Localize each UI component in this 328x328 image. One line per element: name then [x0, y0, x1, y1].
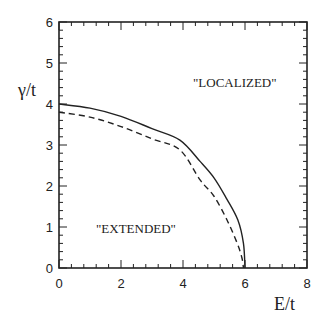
- y-tick-labels: 0123456: [46, 15, 53, 276]
- y-tick-label: 5: [46, 56, 53, 71]
- x-tick-label: 4: [179, 276, 186, 291]
- x-axis-label: E/t: [274, 294, 295, 314]
- solid-curve: [59, 104, 245, 268]
- x-tick-label: 0: [55, 276, 62, 291]
- y-axis-label: γ/t: [17, 80, 36, 100]
- y-tick-label: 3: [46, 138, 53, 153]
- y-tick-label: 0: [46, 261, 53, 276]
- extended-label: "EXTENDED": [96, 221, 176, 236]
- y-tick-label: 1: [46, 220, 53, 235]
- x-tick-labels: 02468: [55, 276, 310, 291]
- x-tick-label: 8: [303, 276, 310, 291]
- phase-diagram-chart: 02468 0123456 γ/t E/t "LOCALIZED" "EXTEN…: [0, 0, 328, 328]
- x-tick-label: 6: [241, 276, 248, 291]
- localized-label: "LOCALIZED": [193, 75, 277, 90]
- x-tick-label: 2: [117, 276, 124, 291]
- curves: [59, 104, 245, 268]
- dashed-curve: [59, 112, 243, 268]
- y-tick-label: 4: [46, 97, 53, 112]
- y-tick-label: 6: [46, 15, 53, 30]
- y-tick-label: 2: [46, 179, 53, 194]
